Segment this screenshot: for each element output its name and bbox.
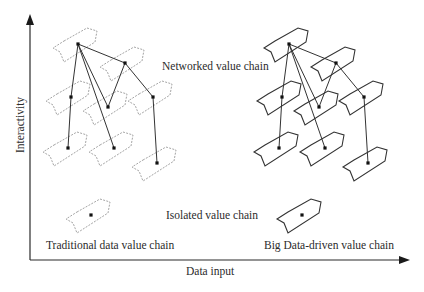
- traditional-network-edge: [125, 63, 153, 97]
- chevron-layer: [43, 28, 387, 233]
- big-data-node-dot-1: [334, 61, 337, 64]
- big-data-node-dot-7: [366, 161, 369, 164]
- big-data-driven-value-chain-label: Big Data-driven value chain: [264, 240, 394, 252]
- traditional-data-value-chain-label: Traditional data value chain: [46, 240, 174, 252]
- big-data-chevron-0: [264, 28, 308, 62]
- traditional-isolated-chevron: [66, 199, 110, 233]
- big-data-network-edge: [289, 44, 336, 63]
- traditional-node-dot-3: [106, 105, 109, 108]
- big-data-node-dot-5: [277, 146, 280, 149]
- traditional-network-edge: [78, 44, 125, 63]
- traditional-node-dot-4: [151, 95, 154, 98]
- traditional-node-dot-7: [155, 161, 158, 164]
- traditional-chevron-1: [100, 47, 144, 81]
- big-data-chevron-2: [257, 81, 301, 115]
- big-data-chevron-5: [254, 132, 298, 166]
- x-axis-arrowhead-icon: [399, 256, 410, 264]
- y-axis-label: Interactivity: [14, 95, 26, 155]
- traditional-chevron-0: [53, 28, 97, 62]
- big-data-chevron-7: [343, 147, 387, 181]
- isolated-value-chain-label: Isolated value chain: [166, 210, 258, 222]
- big-data-chevron-6: [300, 132, 344, 166]
- big-data-node-dot-0: [287, 42, 290, 45]
- big-data-chevron-1: [311, 47, 355, 81]
- big-data-chevron-3: [294, 91, 338, 125]
- traditional-chevron-7: [132, 147, 176, 181]
- diagram-canvas: Networked value chain Isolated value cha…: [0, 0, 424, 292]
- traditional-node-dot-2: [69, 95, 72, 98]
- big-data-isolated-chevron: [277, 199, 321, 233]
- traditional-node-dot-0: [76, 42, 79, 45]
- traditional-isolated-node-dot: [89, 213, 92, 216]
- big-data-node-dot-2: [280, 95, 283, 98]
- networked-value-chain-label: Networked value chain: [162, 61, 269, 73]
- traditional-node-dot-6: [112, 146, 115, 149]
- y-axis-arrowhead-icon: [26, 14, 34, 25]
- traditional-chevron-5: [43, 132, 87, 166]
- big-data-chevron-4: [339, 81, 383, 115]
- big-data-node-dot-3: [317, 105, 320, 108]
- traditional-chevron-6: [89, 132, 133, 166]
- big-data-isolated-node-dot: [300, 213, 303, 216]
- traditional-chevron-4: [128, 81, 172, 115]
- traditional-node-dot-1: [123, 61, 126, 64]
- traditional-node-dot-5: [66, 146, 69, 149]
- big-data-node-dot-4: [362, 95, 365, 98]
- x-axis-label: Data input: [186, 266, 234, 278]
- traditional-chevron-3: [83, 91, 127, 125]
- traditional-chevron-2: [46, 81, 90, 115]
- big-data-network-edge: [336, 63, 364, 97]
- big-data-node-dot-6: [323, 146, 326, 149]
